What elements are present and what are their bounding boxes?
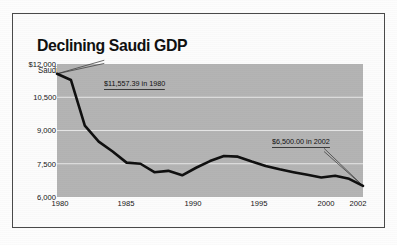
y-tick-label: 7,500	[37, 160, 56, 169]
x-tick-label: 2002	[350, 199, 367, 208]
x-tick-label: 1995	[251, 199, 268, 208]
y-tick-label: $12,000	[29, 60, 56, 69]
y-tick-label: 9,000	[37, 126, 56, 135]
x-tick-label: 1990	[185, 199, 202, 208]
annotation-label-1980: $11,557.39 in 1980	[104, 79, 165, 90]
y-tick-label: 10,500	[33, 93, 56, 102]
plot-area	[57, 64, 363, 197]
gridlines	[57, 97, 363, 164]
x-tick-label: 1985	[118, 199, 135, 208]
leader-line	[324, 152, 363, 186]
annotation-label-2002: $6,500.00 in 2002	[272, 137, 330, 148]
annotation-leader-lines	[57, 60, 363, 186]
x-tick-label: 2000	[318, 199, 335, 208]
chart-title: Declining Saudi GDP	[37, 36, 187, 56]
chart-canvas	[57, 64, 363, 197]
chart-page: Declining Saudi GDP Saudi GDP per capita…	[0, 0, 397, 245]
leader-line	[57, 63, 104, 73]
data-line	[57, 74, 363, 186]
x-tick-label: 1980	[52, 199, 69, 208]
